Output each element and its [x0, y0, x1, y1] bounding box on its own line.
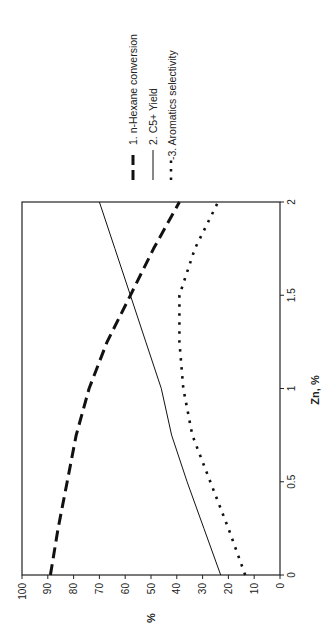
svg-text:2. C5+ Yield: 2. C5+ Yield [147, 88, 159, 145]
legend-item-c5-yield: 2. C5+ Yield [147, 88, 159, 180]
y-tick-label: 70 [94, 583, 105, 595]
y-tick-label: 0 [275, 583, 286, 589]
x-tick-label: 0 [286, 572, 297, 578]
y-tick-label: 40 [171, 583, 182, 595]
y-tick-label: 60 [120, 583, 131, 595]
svg-text:1. n-Hexane conversion: 1. n-Hexane conversion [127, 34, 139, 145]
series-line-1 [50, 202, 179, 575]
x-axis-title: Zn, % [309, 375, 321, 405]
y-tick-label: 100 [17, 583, 28, 600]
y-tick-label: 90 [42, 583, 53, 595]
x-tick-label: 1.5 [286, 288, 297, 302]
x-tick-label: 0.5 [286, 474, 297, 488]
chart: 010203040506070809010000.511.52 % Zn, % … [0, 0, 329, 635]
x-tick-label: 2 [286, 199, 297, 205]
y-tick-label: 10 [249, 583, 260, 595]
legend-item-n-hexane: 1. n-Hexane conversion [127, 34, 139, 180]
x-tick-label: 1 [286, 385, 297, 391]
series-line-3 [179, 202, 245, 575]
y-tick-label: 20 [223, 583, 234, 595]
y-tick-label: 80 [68, 583, 79, 595]
y-tick-label: 30 [197, 583, 208, 595]
y-tick-label: 50 [146, 583, 157, 595]
legend: 1. n-Hexane conversion 2. C5+ Yield -3. … [127, 34, 178, 180]
axis-ticks: 010203040506070809010000.511.52 [17, 199, 298, 600]
series-line-2 [99, 202, 220, 575]
legend-item-aromatics: -3. Aromatics selectivity [166, 50, 178, 180]
y-axis-title: % [145, 613, 157, 623]
svg-text:-3. Aromatics selectivity: -3. Aromatics selectivity [166, 50, 178, 160]
data-series [50, 202, 245, 575]
